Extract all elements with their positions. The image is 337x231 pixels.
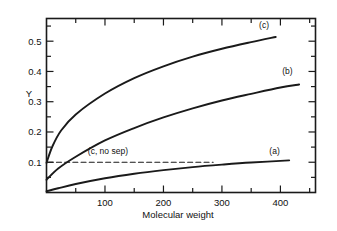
line-chart: 1002003004000.10.20.30.40.5 (a)(b)(c)(c,… <box>0 0 337 231</box>
y-tick-label: 0.5 <box>28 36 41 47</box>
curve-label-b: (b) <box>282 66 293 76</box>
curve-label-a: (a) <box>269 146 280 156</box>
curve-label-c-no-sep: (c, no sep) <box>88 146 128 156</box>
x-axis-title: Molecular weight <box>142 209 214 220</box>
x-tick-label: 100 <box>97 197 113 208</box>
y-tick-label: 0.2 <box>28 126 41 137</box>
x-tick-label: 400 <box>272 197 288 208</box>
y-tick-label: 0.1 <box>28 157 41 168</box>
x-tick-label: 200 <box>156 197 172 208</box>
curve-label-c: (c) <box>259 20 269 30</box>
y-tick-label: 0.4 <box>28 66 41 77</box>
chart-figure: 1002003004000.10.20.30.40.5 (a)(b)(c)(c,… <box>0 0 337 231</box>
y-axis-title: Y <box>26 88 33 99</box>
x-tick-label: 300 <box>214 197 230 208</box>
